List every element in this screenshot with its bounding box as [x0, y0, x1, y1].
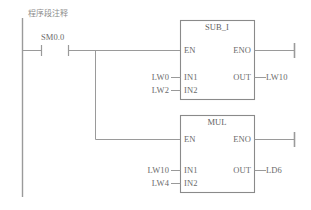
- mul-in2-operand[interactable]: LW4: [116, 179, 169, 188]
- mul-in1-operand[interactable]: LW10: [116, 166, 169, 175]
- mul-out-pin-label: OUT: [200, 166, 251, 175]
- sub-i-in1-operand[interactable]: LW0: [120, 73, 169, 82]
- mul-block-title: MUL: [185, 118, 249, 127]
- sub-i-in2-pin-label: IN2: [184, 86, 198, 95]
- mul-in1-pin-label: IN1: [184, 166, 198, 175]
- contact-label-sm00: SM0.0: [41, 33, 64, 42]
- mul-in2-pin-label: IN2: [184, 179, 198, 188]
- mul-en-pin-label: EN: [184, 135, 196, 144]
- mul-eno-pin-label: ENO: [200, 135, 251, 144]
- sub-i-block-title: SUB_I: [185, 23, 249, 32]
- ladder-diagram-canvas: 程序段注释 SM0.0 SUB_I EN ENO IN1 IN2 LW0 LW2…: [0, 0, 311, 210]
- sub-i-in2-operand[interactable]: LW2: [120, 86, 169, 95]
- network-comment: 程序段注释: [28, 10, 69, 18]
- sub-i-out-operand[interactable]: LW10: [266, 73, 287, 82]
- sub-i-in1-pin-label: IN1: [184, 73, 198, 82]
- sub-i-en-pin-label: EN: [184, 46, 196, 55]
- sub-i-out-pin-label: OUT: [200, 73, 251, 82]
- sub-i-eno-pin-label: ENO: [200, 46, 251, 55]
- mul-out-operand[interactable]: LD6: [266, 166, 282, 175]
